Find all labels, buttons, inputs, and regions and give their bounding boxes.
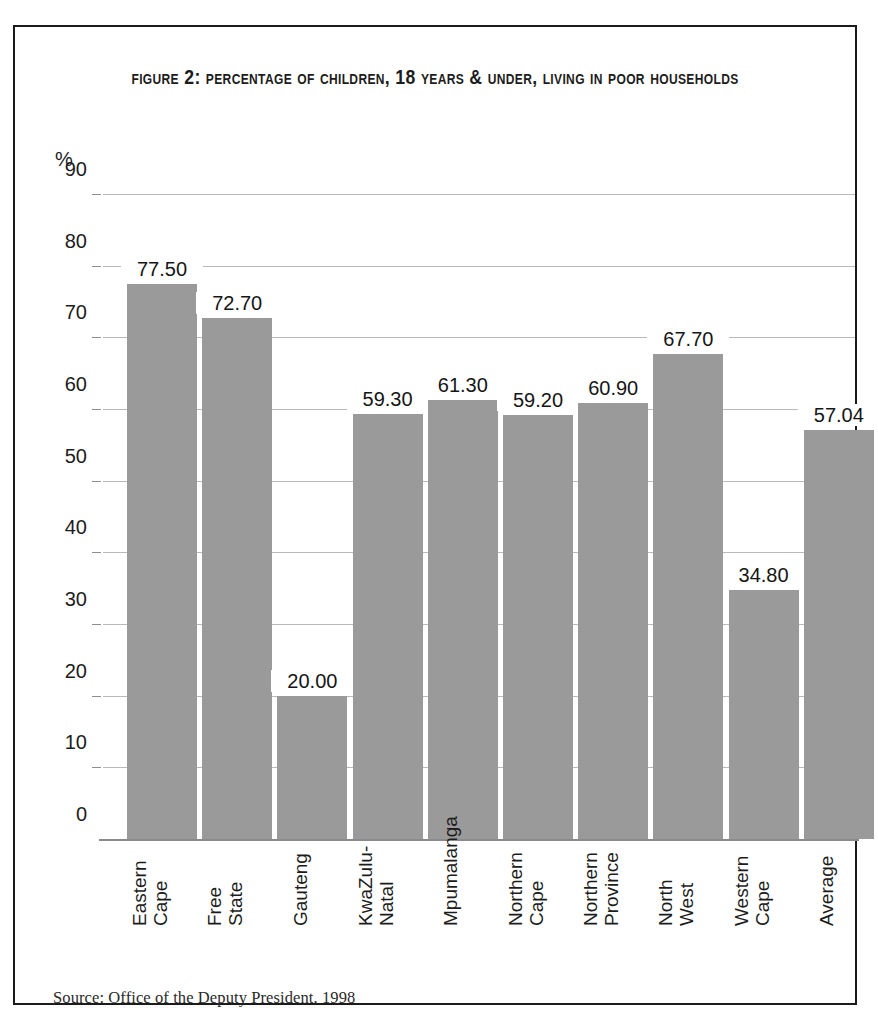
y-axis-tick <box>92 194 101 195</box>
bar-value-label: 67.70 <box>647 328 729 350</box>
y-axis-tick-label: 60 <box>41 374 87 394</box>
x-axis-category-label: NorthWest <box>655 880 697 926</box>
y-axis-tick <box>92 266 101 267</box>
bar-value-label: 72.70 <box>196 292 278 314</box>
bar <box>428 400 498 839</box>
bar <box>578 403 648 839</box>
x-axis-category-label: NorthernCape <box>505 852 547 926</box>
x-axis-label-line: Mpumalanga <box>440 816 461 926</box>
bar <box>804 430 874 839</box>
bar-value-label: 59.30 <box>347 388 429 410</box>
x-axis-label-line: Gauteng <box>290 853 311 926</box>
bar-value-label: 77.50 <box>121 258 203 280</box>
y-axis-tick <box>92 337 101 338</box>
figure-frame: Figure 2: Percentage of children, 18 yea… <box>13 25 857 1005</box>
y-axis-tick-label: 10 <box>41 732 87 752</box>
x-axis-label-line: Province <box>601 852 622 926</box>
bar <box>653 354 723 839</box>
x-axis-category-label: KwaZulu-Natal <box>355 846 397 926</box>
y-axis-tick-label: 0 <box>41 804 87 824</box>
plot-area: 77.5072.7020.0059.3061.3059.2060.9067.70… <box>103 194 855 839</box>
y-axis-tick <box>92 767 101 768</box>
x-axis-label-line: Eastern <box>129 861 150 926</box>
y-axis-tick <box>92 696 101 697</box>
bar <box>503 415 573 839</box>
x-axis-label-line: North <box>655 880 676 926</box>
y-axis-tick-label: 50 <box>41 446 87 466</box>
y-axis-tick-label: 80 <box>41 231 87 251</box>
x-axis-category-label: NorthernProvince <box>580 852 622 926</box>
x-axis-label-line: Cape <box>526 852 547 926</box>
x-axis-category-label: FreeState <box>204 882 246 926</box>
x-axis-label-line: Cape <box>752 856 773 926</box>
x-axis-category-label: WesternCape <box>731 856 773 926</box>
page-title: Figure 2: Percentage of children, 18 yea… <box>74 65 796 89</box>
y-axis-tick-label: 20 <box>41 661 87 681</box>
y-axis-tick <box>92 409 101 410</box>
bar-value-label: 59.20 <box>497 389 579 411</box>
bar <box>277 696 347 839</box>
source-note: Source: Office of the Deputy President, … <box>53 988 355 1008</box>
bar-value-label: 60.90 <box>572 377 654 399</box>
x-axis-label-line: KwaZulu- <box>355 846 376 926</box>
bar-value-label: 34.80 <box>723 564 805 586</box>
y-axis-tick-label: 40 <box>41 517 87 537</box>
x-axis-category-label: Average <box>816 856 837 926</box>
x-axis-category-label: EasternCape <box>129 861 171 926</box>
y-axis-tick <box>92 552 101 553</box>
x-axis-label-line: Average <box>816 856 837 926</box>
x-axis-line <box>99 839 859 841</box>
y-axis-tick <box>92 624 101 625</box>
y-axis-tick <box>92 481 101 482</box>
x-axis-label-line: Free <box>204 882 225 926</box>
x-axis-label-line: Western <box>731 856 752 926</box>
x-axis-label-line: Natal <box>376 846 397 926</box>
bar-value-label: 20.00 <box>271 670 353 692</box>
x-axis-label-line: Northern <box>505 852 526 926</box>
y-axis-tick-label: 70 <box>41 302 87 322</box>
x-axis-category-label: Gauteng <box>290 853 311 926</box>
bar-value-label: 61.30 <box>422 374 504 396</box>
x-axis-label-line: Northern <box>580 852 601 926</box>
x-axis-category-label: Mpumalanga <box>440 816 461 926</box>
bar <box>202 318 272 839</box>
gridline <box>103 266 855 267</box>
gridline <box>103 194 855 195</box>
x-axis-label-line: West <box>676 880 697 926</box>
x-axis-label-line: State <box>225 882 246 926</box>
y-axis-tick-label: 90 <box>41 159 87 179</box>
bar-value-label: 57.04 <box>798 404 878 426</box>
bar <box>127 284 197 839</box>
bar <box>729 590 799 839</box>
x-axis-label-line: Cape <box>150 861 171 926</box>
y-axis-tick-label: 30 <box>41 589 87 609</box>
bar <box>353 414 423 839</box>
